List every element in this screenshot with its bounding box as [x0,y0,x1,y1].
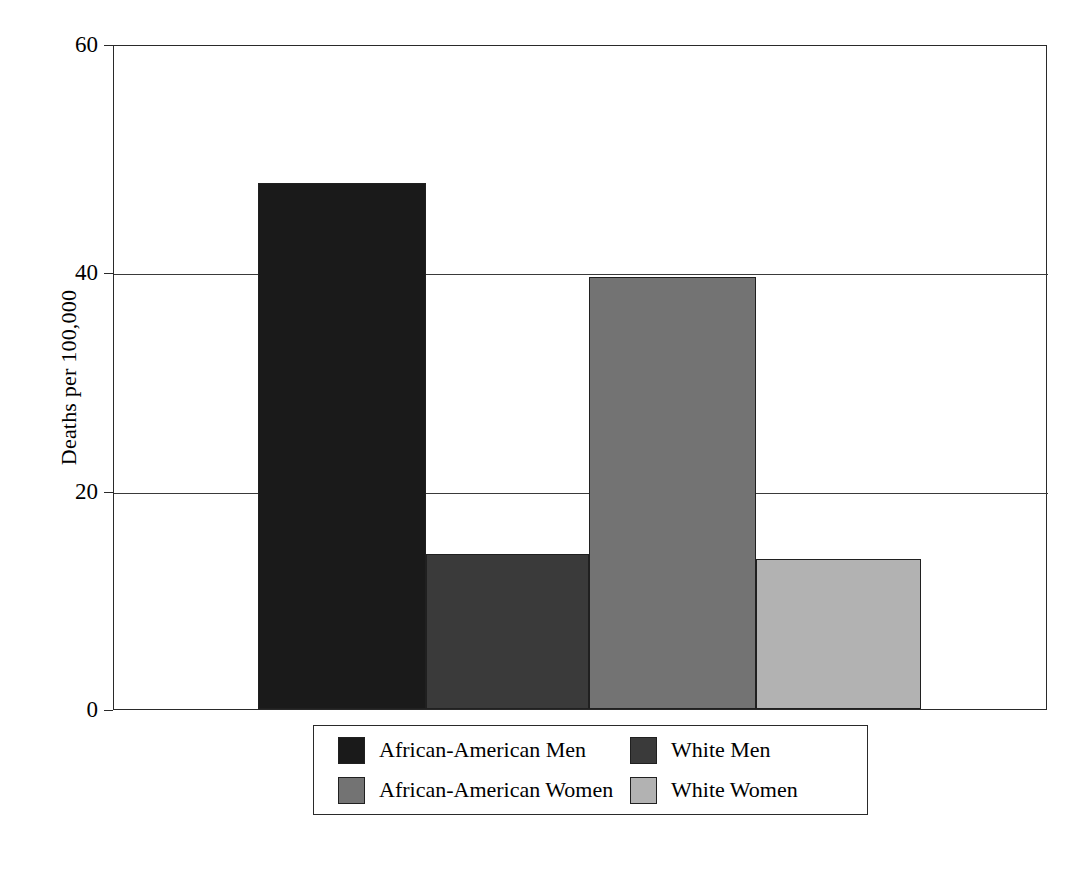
legend-item-white-men: White Men [630,737,867,764]
plot-area [113,45,1047,710]
y-tick-label-0: 0 [38,698,98,721]
legend-item-african-american-women: African-American Women [338,777,630,804]
legend-swatch-icon [338,777,365,804]
chart-figure: Deaths per 100,000 60 40 20 0 African-Am… [0,0,1085,872]
legend-item-label: African-American Men [379,739,586,761]
bar-white-men [426,554,589,709]
y-tick-mark-20 [104,492,113,493]
y-tick-label-20: 20 [38,480,98,503]
y-tick-mark-60 [104,45,113,46]
legend-swatch-icon [338,737,365,764]
bar-african-american-women [589,277,756,709]
y-tick-label-60: 60 [38,33,98,56]
legend-item-african-american-men: African-American Men [338,737,630,764]
y-tick-mark-0 [104,710,113,711]
legend-swatch-icon [630,737,657,764]
legend-item-label: White Women [671,779,798,801]
y-tick-label-40: 40 [38,261,98,284]
legend-swatch-icon [630,777,657,804]
legend-item-label: African-American Women [379,779,613,801]
gridline-40 [114,274,1048,275]
bar-white-women [756,559,921,709]
bar-african-american-men [258,183,426,709]
y-tick-mark-40 [104,273,113,274]
legend: African-American Men White Men African-A… [313,725,868,815]
y-axis-title: Deaths per 100,000 [46,45,92,710]
legend-item-label: White Men [671,739,771,761]
gridline-20 [114,493,1048,494]
legend-item-white-women: White Women [630,777,867,804]
